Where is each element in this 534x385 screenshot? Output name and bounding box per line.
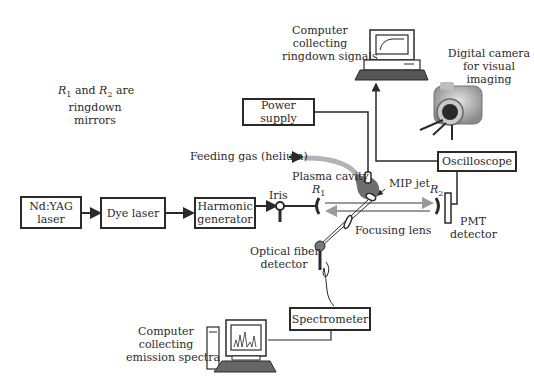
dye-laser-box: Dye laser	[100, 197, 166, 229]
oscilloscope-label: Oscilloscope	[442, 155, 512, 168]
ndyag-laser-box: Nd:YAGlaser	[20, 196, 82, 229]
note-line2: ringdown	[58, 101, 132, 114]
r1-label: R1	[312, 183, 325, 200]
pmt-label: PMT detector	[450, 215, 496, 241]
harmonic-generator-box: Harmonicgenerator	[194, 197, 256, 229]
ndyag-line2: laser	[29, 213, 73, 226]
digital-camera-icon	[420, 82, 482, 140]
r2-sub: 2	[438, 189, 443, 198]
optical-fiber-label: Optical fiber detector	[250, 245, 318, 271]
computer-ringdown-line3: ringdown signals	[282, 50, 358, 63]
optical-fiber-line2: detector	[250, 258, 318, 271]
note-are: are	[112, 84, 134, 97]
computer-emission-line1: Computer	[126, 325, 206, 338]
computer-emission-label: Computer collecting emission spectra	[126, 325, 206, 364]
wire-oscilloscope-to-computer	[376, 84, 437, 161]
plasma-cavity-label: Plasma cavity	[292, 170, 369, 183]
camera-line1: Digital camera	[446, 47, 532, 60]
dye-label: Dye laser	[107, 207, 160, 220]
computer-emission-line3: emission spectra	[126, 351, 206, 364]
computer-emission-line2: collecting	[126, 338, 206, 351]
mirror-r1-icon	[317, 198, 320, 214]
feeding-gas-label: Feeding gas (helium)	[190, 150, 308, 163]
camera-line2: for visual	[446, 60, 532, 73]
camera-line3: imaging	[446, 73, 532, 86]
optical-fiber-cable	[323, 262, 334, 306]
spectrometer-box: Spectrometer	[289, 307, 371, 331]
optical-fiber-line1: Optical fiber	[250, 245, 318, 258]
pmt-line1: PMT	[450, 215, 496, 228]
computer-emission-icon	[207, 320, 276, 372]
ndyag-line1: Nd:YAG	[29, 200, 73, 213]
wire-spectrometer-to-computer	[268, 330, 331, 340]
mip-jet-label: MIP jet	[389, 177, 430, 190]
computer-ringdown-line2: collecting	[282, 37, 358, 50]
harmonic-line2: generator	[197, 213, 252, 226]
iris-label: Iris	[269, 189, 288, 202]
iris-icon	[276, 202, 284, 222]
spectrometer-label: Spectrometer	[292, 313, 369, 326]
r2-label: R2	[430, 183, 443, 200]
computer-ringdown-line1: Computer	[282, 24, 358, 37]
pmt-line2: detector	[450, 228, 496, 241]
harmonic-line1: Harmonic	[197, 200, 252, 213]
computer-ringdown-label: Computer collecting ringdown signals	[282, 24, 358, 63]
camera-label: Digital camera for visual imaging	[446, 47, 532, 86]
mirror-r2-icon	[436, 198, 439, 214]
note-line3: mirrors	[58, 114, 132, 127]
power-supply-box: Power supply	[242, 98, 315, 126]
oscilloscope-box: Oscilloscope	[437, 151, 517, 172]
r1-sub: 1	[320, 189, 325, 198]
power-supply-label: Power supply	[244, 99, 313, 125]
focusing-lens-label: Focusing lens	[355, 224, 431, 237]
mirrors-note: R1 and R2 are ringdown mirrors	[58, 84, 132, 127]
note-and: and	[71, 84, 99, 97]
